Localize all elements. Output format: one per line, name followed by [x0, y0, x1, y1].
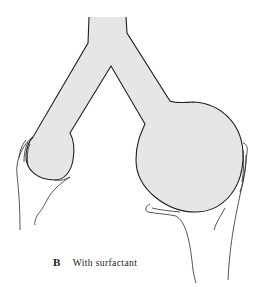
panel-label: B [53, 256, 61, 268]
surfactant-diagram: BWith surfactant [0, 0, 261, 287]
airway-and-alveoli-shape [26, 17, 243, 212]
caption-text: With surfactant [73, 258, 137, 268]
figure-caption: BWith surfactant [53, 256, 137, 268]
alveoli-illustration [0, 0, 261, 287]
